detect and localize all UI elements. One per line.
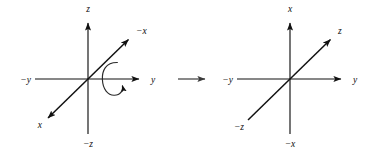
left-coordinate-axes: z −z y −y −x x [20, 4, 156, 149]
axis-left-x-positive [48, 79, 88, 118]
label-right-y-positive: y [352, 75, 358, 85]
label-left-x-negative: −x [136, 26, 147, 36]
label-left-y-negative: −y [20, 75, 31, 85]
label-right-z-positive: z [337, 26, 342, 36]
label-right-z-negative: −z [234, 122, 244, 132]
axis-right-z-negative [248, 79, 290, 120]
label-left-z-positive: z [85, 4, 90, 14]
right-coordinate-axes: x −x y −y z −z [222, 4, 358, 149]
label-left-y-positive: y [150, 75, 156, 85]
label-right-y-negative: −y [222, 75, 233, 85]
label-left-z-negative: −z [83, 139, 93, 149]
label-left-x-positive: x [37, 120, 43, 130]
axis-left-x-negative [88, 40, 129, 80]
label-right-x-negative: −x [285, 139, 296, 149]
figure-root: z −z y −y −x x x −x y −y z [0, 0, 379, 155]
coordinate-rotation-figure: z −z y −y −x x x −x y −y z [0, 0, 379, 155]
axis-right-z-positive [290, 40, 331, 80]
label-right-x-positive: x [287, 4, 293, 14]
